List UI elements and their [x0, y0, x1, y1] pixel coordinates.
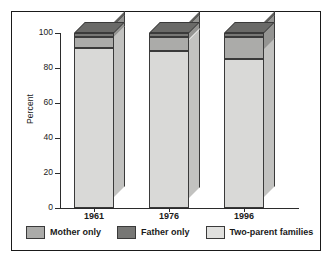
y-axis-line — [60, 33, 61, 209]
y-tick-label-20: 20 — [27, 168, 53, 177]
legend-item-father-only: Father only — [117, 226, 190, 239]
figure-frame: Percent 100 80 60 40 20 0 1961 1976 — [11, 11, 321, 251]
bar-segment-1996-father-only — [224, 33, 264, 37]
chart-legend: Mother only Father only Two-parent famil… — [26, 223, 310, 241]
bar-segment-1996-two-parent-families — [224, 59, 264, 208]
y-tick-label-80: 80 — [27, 63, 53, 72]
x-tick-label-1961: 1961 — [69, 212, 119, 221]
plot-area: Percent 100 80 60 40 20 0 1961 1976 — [12, 12, 322, 252]
y-tick-label-20-wrap: 20 — [20, 168, 53, 178]
bar-segment-1961-two-parent-families — [74, 48, 114, 208]
y-tick-label-0-wrap: 0 — [20, 203, 53, 213]
bar-segment-1976-two-parent-families — [149, 51, 189, 209]
legend-swatch-two-parent-families — [206, 226, 225, 239]
y-tick-80 — [55, 68, 60, 69]
y-tick-label-100-wrap: 100 — [20, 28, 53, 38]
bar-segment-1961-father-only — [74, 33, 114, 37]
y-tick-label-0: 0 — [27, 203, 53, 212]
legend-label-mother-only: Mother only — [50, 228, 101, 237]
legend-swatch-mother-only — [26, 226, 45, 239]
y-tick-100 — [55, 33, 60, 34]
x-axis-line — [60, 208, 299, 209]
y-axis-title: Percent — [25, 79, 35, 139]
y-tick-label-100: 100 — [27, 28, 53, 37]
x-tick-label-1996: 1996 — [219, 212, 269, 221]
y-tick-label-80-wrap: 80 — [20, 63, 53, 73]
legend-swatch-father-only — [117, 226, 136, 239]
x-tick-label-1976: 1976 — [144, 212, 194, 221]
legend-item-mother-only: Mother only — [26, 226, 101, 239]
y-tick-label-40: 40 — [27, 133, 53, 142]
bar-side-1961-two-parent-families — [114, 26, 125, 197]
bar-side-1996-two-parent-families — [264, 37, 275, 197]
legend-label-father-only: Father only — [141, 228, 190, 237]
y-tick-label-60-wrap: 60 — [20, 98, 53, 108]
bar-side-1976-two-parent-families — [189, 29, 200, 198]
y-tick-label-60: 60 — [27, 98, 53, 107]
y-tick-40 — [55, 138, 60, 139]
y-tick-label-40-wrap: 40 — [20, 133, 53, 143]
bar-segment-1996-mother-only — [224, 37, 264, 60]
y-tick-20 — [55, 173, 60, 174]
bar-segment-1976-father-only — [149, 33, 189, 37]
legend-item-two-parent-families: Two-parent families — [206, 226, 314, 239]
bar-segment-1961-mother-only — [74, 37, 114, 48]
legend-label-two-parent-families: Two-parent families — [230, 228, 314, 237]
y-tick-0 — [55, 208, 60, 209]
bar-segment-1976-mother-only — [149, 37, 189, 50]
y-tick-60 — [55, 103, 60, 104]
